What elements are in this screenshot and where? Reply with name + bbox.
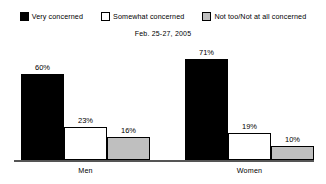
bar-item-men-not-too-concerned: 16%	[107, 126, 150, 160]
legend-label: Very concerned	[32, 12, 83, 21]
bar-group-men: 60% 23% 16%	[21, 44, 150, 160]
bar-item-women-very-concerned: 71%	[185, 48, 228, 160]
legend-item-somewhat-concerned: Somewhat concerned	[101, 12, 184, 21]
legend-label: Not too/Not at all concerned	[214, 12, 306, 21]
bar-men-very-concerned	[21, 74, 64, 160]
bar-men-not-too-concerned	[107, 137, 150, 160]
legend-label: Somewhat concerned	[113, 12, 184, 21]
bar-women-not-too-concerned	[271, 146, 314, 160]
grouped-bar-chart: Very concerned Somewhat concerned Not to…	[0, 0, 326, 184]
bar-women-somewhat-concerned	[228, 133, 271, 160]
bar-item-men-somewhat-concerned: 23%	[64, 116, 107, 160]
chart-subtitle: Feb. 25-27, 2005	[0, 30, 326, 37]
bar-value-label: 10%	[285, 135, 300, 144]
bar-men-somewhat-concerned	[64, 127, 107, 160]
bar-value-label: 60%	[35, 63, 50, 72]
gray-swatch-icon	[202, 12, 211, 21]
chart-legend: Very concerned Somewhat concerned Not to…	[0, 9, 326, 23]
category-label-men: Men	[21, 166, 150, 175]
legend-item-very-concerned: Very concerned	[20, 12, 83, 21]
bar-item-women-not-too-concerned: 10%	[271, 135, 314, 160]
legend-item-not-too-concerned: Not too/Not at all concerned	[202, 12, 306, 21]
white-swatch-icon	[101, 12, 110, 21]
x-axis-baseline	[14, 160, 314, 162]
bar-item-women-somewhat-concerned: 19%	[228, 122, 271, 160]
bar-item-men-very-concerned: 60%	[21, 63, 64, 160]
bar-value-label: 23%	[78, 116, 93, 125]
bar-value-label: 19%	[242, 122, 257, 131]
black-swatch-icon	[20, 12, 29, 21]
plot-area: 60% 23% 16% 71%	[0, 44, 326, 162]
bar-group-women: 71% 19% 10%	[185, 44, 314, 160]
bar-women-very-concerned	[185, 59, 228, 160]
bar-value-label: 16%	[121, 126, 136, 135]
bar-value-label: 71%	[199, 48, 214, 57]
bars-men: 60% 23% 16%	[21, 44, 150, 160]
bars-women: 71% 19% 10%	[185, 44, 314, 160]
category-label-women: Women	[185, 166, 314, 175]
